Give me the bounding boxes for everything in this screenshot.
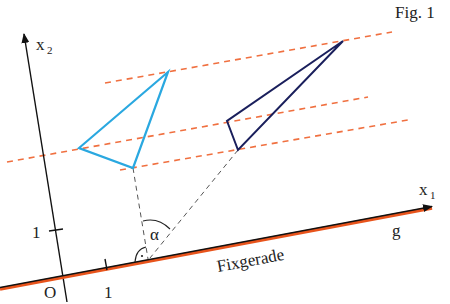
angle-alpha-label: α — [150, 225, 159, 244]
x2-axis-label: x — [36, 35, 45, 54]
line-g-label: g — [392, 221, 401, 240]
x1-axis-subscript: 1 — [430, 189, 436, 201]
x2-axis-subscript: 2 — [47, 44, 53, 56]
parallel-line-bottom — [120, 120, 408, 170]
origin-label: O — [44, 283, 56, 302]
x1-axis-label: x — [419, 180, 428, 199]
fixed-line-caption: Fixgerade — [215, 245, 285, 276]
slanted-line — [150, 150, 238, 258]
shear-mapping-diagram: Fig. 1 x 2 x 1 g 1 1 O α Fixgerade — [0, 0, 450, 304]
original-triangle — [79, 72, 168, 168]
perpendicular-line — [133, 168, 148, 259]
x2-tick — [49, 229, 63, 231]
x2-axis — [24, 34, 67, 302]
figure-caption: Fig. 1 — [395, 3, 435, 22]
fixed-line-g-outer — [0, 208, 432, 289]
parallel-line-top — [105, 32, 392, 83]
right-angle-dot — [141, 255, 143, 257]
parallel-line-middle — [7, 97, 368, 162]
x1-axis-fixed-line-g — [0, 207, 432, 288]
construction-lines — [133, 150, 238, 259]
x1-tick-label: 1 — [104, 283, 113, 302]
image-triangle — [227, 41, 343, 150]
x2-tick-label: 1 — [32, 223, 41, 242]
parallel-dashed-lines — [7, 32, 408, 170]
